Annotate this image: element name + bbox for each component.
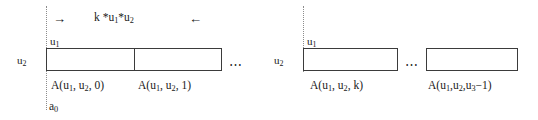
col-extent-label-left: u1 — [50, 36, 59, 47]
array-cell — [426, 48, 518, 71]
col-extent-label-right: u1 — [307, 36, 316, 47]
row-extent-label-left: u2 — [17, 55, 26, 66]
ellipsis-left-group: ⋯ — [229, 58, 243, 71]
array-cell-label: A(u1,u2,u3−1) — [428, 80, 492, 92]
array-cell — [134, 48, 222, 71]
array-cell-label: A(u1, u2, k) — [310, 80, 363, 92]
base-pointer-label: a0 — [49, 101, 58, 113]
row-extent-label-right: u2 — [274, 55, 283, 66]
array-cell — [303, 48, 398, 71]
array-layout-diagram: → k *u1*u2 ← u1 u2 ⋯ A(u1, u2, 0) A(u1, … — [0, 0, 538, 120]
stride-label: k *u1*u2 — [94, 12, 134, 24]
ellipsis-right-group: ⋯ — [405, 58, 419, 71]
stride-arrow-right-icon: ← — [189, 12, 202, 25]
array-cell — [46, 48, 134, 71]
array-cell-label: A(u1, u2, 0) — [51, 80, 104, 92]
array-cell-label: A(u1, u2, 1) — [138, 80, 191, 92]
stride-arrow-left-icon: → — [53, 12, 66, 25]
